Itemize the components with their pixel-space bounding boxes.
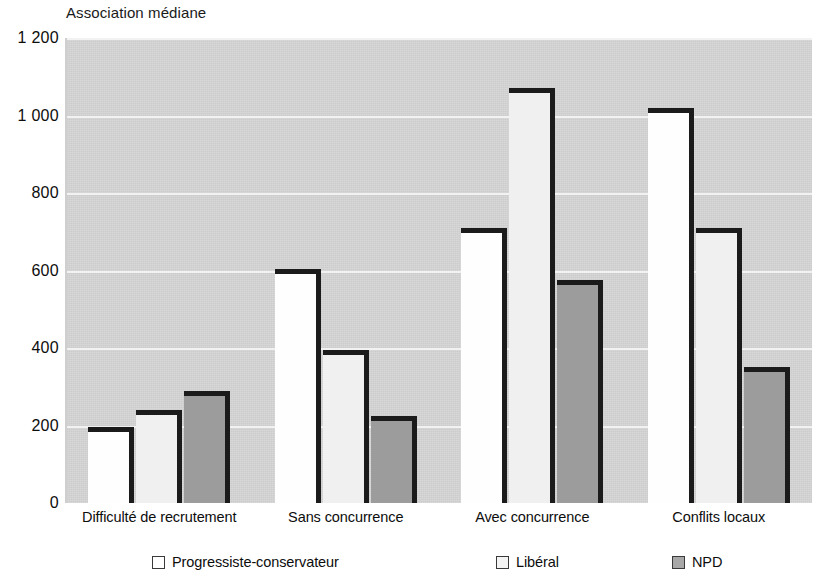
bar-3-3 [557,280,603,503]
legend-item-1[interactable]: Progressiste-conservateur [152,554,339,570]
legend-swatch-icon-1 [152,556,165,569]
bar-2-2 [323,350,369,503]
x-axis-line [66,503,812,505]
chart-title: Association médiane [66,4,206,21]
bar-2-3 [371,416,417,503]
legend-label-1: Progressiste-conservateur [172,554,339,570]
legend-label-3: NPD [692,554,722,570]
bar-1-3 [184,391,230,503]
legend-item-2[interactable]: Libéral [496,554,559,570]
y-tick-label-200: 200 [31,417,59,435]
bar-4-3 [744,367,790,503]
x-category-label-2: Sans concurrence [288,509,403,525]
bar-1-1 [88,427,134,503]
y-tick-label-1200: 1 200 [17,29,59,47]
bar-1-2 [136,410,182,503]
x-category-label-4: Conflits locaux [672,509,765,525]
legend-swatch-icon-3 [672,556,685,569]
y-tick-label-800: 800 [31,184,59,202]
y-tick-label-400: 400 [31,339,59,357]
y-tick-label-0: 0 [50,494,59,512]
gridline-800 [66,193,812,195]
legend-label-2: Libéral [516,554,559,570]
bar-chart-figure: Association médiane 02004006008001 0001 … [0,0,825,580]
bar-2-1 [275,269,321,503]
bar-4-1 [648,108,694,503]
legend-swatch-icon-2 [496,556,509,569]
gridline-1200 [66,38,812,40]
gridline-1000 [66,116,812,118]
bar-3-1 [461,228,507,503]
x-category-label-1: Difficulté de recrutement [82,509,236,525]
y-tick-label-600: 600 [31,262,59,280]
bar-3-2 [509,88,555,503]
y-tick-label-1000: 1 000 [17,107,59,125]
y-axis-line [65,38,67,503]
bar-4-2 [696,228,742,503]
chart-legend: Progressiste-conservateurLibéralNPD [0,548,825,578]
legend-item-3[interactable]: NPD [672,554,722,570]
x-category-label-3: Avec concurrence [475,509,589,525]
plot-area [66,38,812,503]
